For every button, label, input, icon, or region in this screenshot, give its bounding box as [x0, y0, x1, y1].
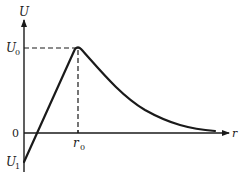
potential-energy-diagram: U r U 0 0 U 1 r 0: [0, 0, 246, 185]
r0-label: r: [73, 136, 80, 150]
origin-label: 0: [12, 127, 19, 140]
x-axis-label: r: [232, 127, 238, 140]
u0-subscript: 0: [15, 48, 20, 57]
u1-subscript: 1: [15, 162, 20, 171]
y-axis-label: U: [19, 5, 30, 19]
potential-curve: [24, 48, 215, 163]
r0-subscript: 0: [80, 143, 85, 152]
